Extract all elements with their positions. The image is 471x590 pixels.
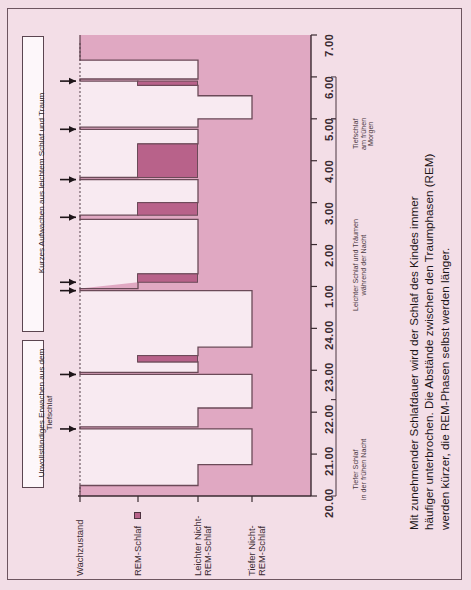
- stage-label-rem: REM-Schlaf: [133, 526, 143, 576]
- bracket-label-light-sleep-dreams: Leichter Schlaf und Träumenwährend der N…: [352, 219, 367, 311]
- time-tick-label: 7.00: [324, 34, 336, 57]
- time-tick-label: 24.00: [324, 321, 336, 351]
- chart-stage: 20.0021.0022.0023.0024.001.002.003.004.0…: [0, 0, 471, 590]
- time-tick-label: 22.00: [324, 405, 336, 435]
- figure-page: 20.0021.0022.0023.0024.001.002.003.004.0…: [0, 0, 471, 590]
- figure-caption: Mit zunehmender Schlafdauer wird der Sch…: [406, 154, 452, 530]
- awakening-arrow: [60, 214, 76, 221]
- time-tick-label: 3.00: [324, 202, 336, 225]
- time-tick-label: 20.00: [324, 488, 336, 518]
- rem-phase-block: [138, 203, 198, 216]
- rem-phase-block: [138, 81, 198, 85]
- time-tick-label: 21.00: [324, 447, 336, 477]
- rem-phase-block: [138, 144, 198, 178]
- time-tick-label: 2.00: [324, 244, 336, 267]
- rem-legend-swatch: [134, 512, 141, 519]
- awakening-arrow: [60, 126, 76, 133]
- bracket-label-deep-early-night: Tiefer Schlafin der frühen Nacht: [352, 439, 367, 500]
- awakening-arrow: [60, 371, 76, 378]
- rem-phase-block: [138, 356, 198, 362]
- awakening-arrow: [60, 279, 76, 286]
- annotation-text-deep-sleep-wake: Unvollständiges Erwachen aus dem Tiefsch…: [38, 344, 55, 482]
- awakening-arrow: [60, 426, 76, 433]
- time-tick-label: 4.00: [324, 160, 336, 183]
- stage-label-deep-nrem: Tiefer Nicht-REM-Schlaf: [247, 525, 267, 576]
- bracket-label-deep-early-morning: Tiefschlafam frühenMorgen: [352, 117, 375, 149]
- awakening-arrow: [60, 176, 76, 183]
- awakening-arrow: [60, 287, 76, 294]
- annotation-text-light-sleep-wake: Kurzes Aufwachen aus leichtem Schlaf und…: [38, 40, 46, 326]
- time-tick-label: 1.00: [324, 285, 336, 308]
- stage-label-awake: Wachzustand: [75, 520, 85, 576]
- time-tick-label: 5.00: [324, 118, 336, 141]
- stage-label-light-nrem: Leichter Nicht-REM-Schlaf: [193, 516, 213, 576]
- rem-phase-block: [138, 274, 198, 282]
- hypnogram-chart: [0, 0, 471, 590]
- awakening-arrow: [60, 78, 76, 85]
- time-tick-label: 23.00: [324, 363, 336, 393]
- time-tick-label: 6.00: [324, 76, 336, 99]
